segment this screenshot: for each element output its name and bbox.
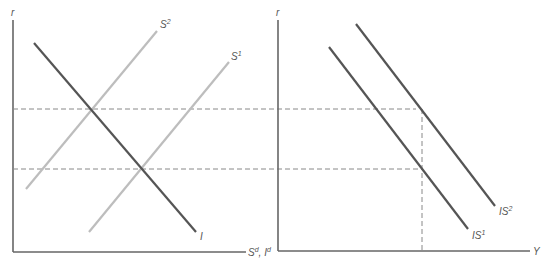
investment-label: I	[200, 231, 203, 242]
investment-curve	[34, 43, 196, 232]
is1-label: IS1	[472, 229, 485, 241]
left-panel: r Sd, Id S2 S1 I	[11, 7, 422, 258]
is2-label: IS2	[499, 205, 512, 217]
left-x-axis-label: Sd, Id	[248, 246, 272, 258]
s2-label: S2	[160, 18, 171, 30]
s1-label: S1	[231, 50, 242, 62]
is-curve-2	[356, 24, 495, 206]
is-curve-1	[329, 47, 468, 229]
left-y-axis-label: r	[11, 7, 15, 18]
right-x-axis-label: Y	[533, 246, 541, 257]
right-panel: r Y IS1 IS2	[276, 7, 541, 257]
is-curve-derivation-diagram: r Sd, Id S2 S1 I r Y IS1 IS2	[0, 0, 547, 262]
right-y-axis-label: r	[276, 7, 280, 18]
